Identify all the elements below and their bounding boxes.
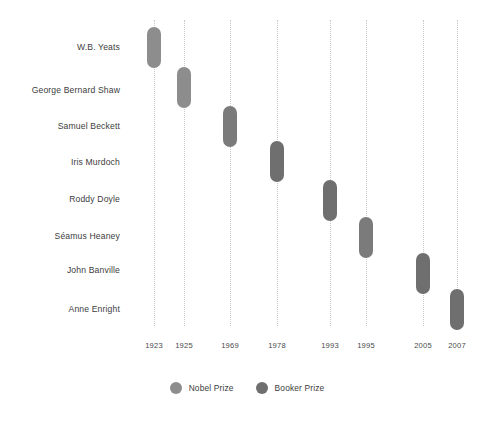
marker-capsule[interactable] (416, 253, 430, 294)
x-tick-label: 1925 (164, 341, 204, 350)
legend-label: Nobel Prize (189, 383, 234, 393)
x-tick-label: 1995 (346, 341, 386, 350)
x-tick-label: 1993 (310, 341, 350, 350)
row-label: George Bernard Shaw (0, 85, 120, 95)
gridline-1969 (230, 20, 231, 326)
timeline-chart: W.B. YeatsGeorge Bernard ShawSamuel Beck… (0, 0, 494, 428)
row-label: Iris Murdoch (0, 157, 120, 167)
plot-area: W.B. YeatsGeorge Bernard ShawSamuel Beck… (0, 0, 494, 428)
row-label: Séamus Heaney (0, 231, 120, 241)
marker-capsule[interactable] (270, 141, 284, 182)
row-label: W.B. Yeats (0, 42, 120, 52)
marker-capsule[interactable] (323, 180, 337, 221)
row-label: Roddy Doyle (0, 194, 120, 204)
gridline-1995 (366, 20, 367, 326)
row-label: Anne Enright (0, 304, 120, 314)
legend-label: Booker Prize (275, 383, 325, 393)
x-tick-label: 1978 (257, 341, 297, 350)
gridline-2007 (457, 20, 458, 326)
legend-item[interactable]: Nobel Prize (170, 382, 234, 394)
gridline-1925 (184, 20, 185, 326)
chart-legend: Nobel PrizeBooker Prize (0, 382, 494, 394)
marker-capsule[interactable] (147, 27, 161, 68)
x-tick-label: 1969 (210, 341, 250, 350)
legend-swatch-circle-icon (256, 382, 268, 394)
gridline-1993 (330, 20, 331, 326)
row-label: John Banville (0, 265, 120, 275)
marker-capsule[interactable] (223, 106, 237, 147)
marker-capsule[interactable] (359, 217, 373, 258)
legend-item[interactable]: Booker Prize (256, 382, 325, 394)
x-tick-label: 2007 (437, 341, 477, 350)
marker-capsule[interactable] (450, 289, 464, 330)
legend-swatch-circle-icon (170, 382, 182, 394)
marker-capsule[interactable] (177, 67, 191, 108)
row-label: Samuel Beckett (0, 121, 120, 131)
